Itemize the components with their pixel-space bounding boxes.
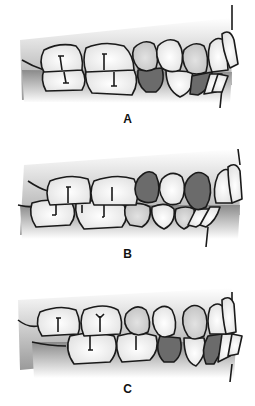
upper-molar-2 [91, 176, 138, 205]
lower-molar-2 [117, 333, 157, 362]
panel-a: A [0, 0, 255, 135]
upper-molar-2 [81, 306, 122, 336]
panel-c: C [0, 270, 255, 406]
dentition-diagram-c [0, 270, 255, 385]
panel-label-c: C [0, 382, 255, 396]
upper-molar-2 [84, 43, 134, 72]
dentition-diagram-a [0, 0, 255, 115]
panel-label-a: A [0, 112, 255, 126]
panel-label-b: B [0, 247, 255, 261]
lower-premolar-dark [138, 68, 163, 92]
upper-molar-1 [47, 176, 91, 205]
panel-b: B [0, 135, 255, 270]
dentition-diagram-b [0, 135, 255, 250]
upper-canine-dark [184, 172, 210, 209]
lower-molar-2 [86, 70, 137, 95]
lower-molar-1 [68, 333, 117, 364]
lower-premolar-dark [158, 336, 181, 362]
